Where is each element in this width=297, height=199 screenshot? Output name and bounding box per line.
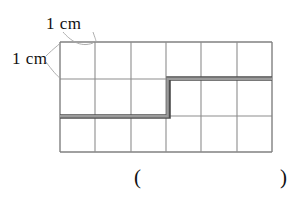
- unit-width-label: 1 cm: [46, 15, 82, 32]
- figure-canvas: 1 cm 1 cm ( ): [0, 0, 297, 199]
- figure-svg: [0, 0, 297, 199]
- leader-lines: [46, 32, 96, 78]
- answer-close-paren: ): [280, 167, 287, 188]
- leader-top-unit-right: [93, 32, 96, 42]
- unit-height-label: 1 cm: [12, 50, 48, 67]
- answer-open-paren: (: [134, 167, 141, 188]
- leader-left-unit: [46, 43, 60, 56]
- leader-left-unit-lower: [46, 62, 60, 78]
- grid-lines: [60, 42, 272, 152]
